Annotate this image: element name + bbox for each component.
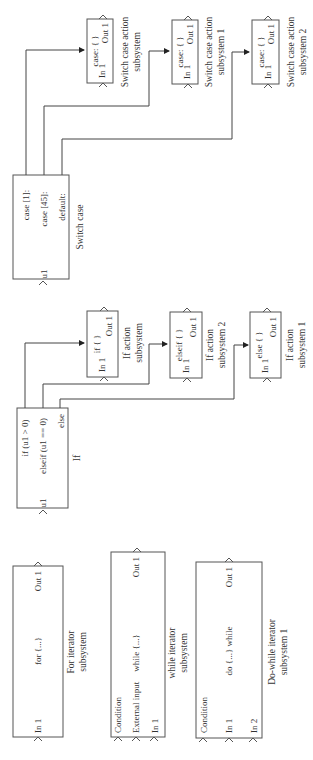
switch-action-2-label-line1: Switch case action — [286, 16, 296, 87]
action-out-port: Out 1 — [266, 24, 276, 44]
do-while-out-port: Out 1 — [224, 567, 234, 587]
output-port-icon — [184, 16, 192, 20]
for-body-label: for {...} — [33, 637, 43, 665]
input-port-icon — [132, 737, 140, 741]
input-port-icon — [225, 738, 233, 742]
if-input-label: u1 — [38, 499, 48, 508]
switch-case-action-subsystem[interactable]: case: { } In 1 Out 1 — [87, 15, 113, 87]
elseif-action-subsystem[interactable]: elseif { } In 1 Out 1 — [170, 308, 202, 382]
input-port-icon — [34, 737, 42, 741]
for-in-port: In 1 — [33, 719, 43, 733]
action-in-port: In 1 — [263, 65, 273, 79]
action-port-icon — [99, 83, 107, 87]
action-title: if { } — [92, 335, 102, 354]
action-title: else { } — [254, 331, 264, 358]
do-while-iterator-subsystem[interactable]: Condition In 1 In 2 do {...} while Out 1 — [196, 558, 262, 742]
do-while-in-1-port: In 1 — [224, 719, 234, 733]
if-block[interactable]: if (u1 > 0) elseif (u1 == 0) else u1 — [17, 408, 68, 514]
action-port-icon — [263, 378, 271, 382]
action-title: case: { } — [175, 36, 185, 67]
switch-case-port-default: default: — [57, 193, 67, 221]
input-port-icon — [39, 281, 47, 285]
output-port-icon — [100, 307, 108, 311]
switch-action-1-label-line1: Switch case action — [204, 16, 214, 87]
output-port-icon — [263, 308, 271, 312]
switch-action-label-line1: Switch case action — [120, 16, 130, 87]
while-external-input-port: External input — [131, 681, 141, 733]
while-condition-port: Condition — [113, 696, 123, 733]
for-out-port: Out 1 — [33, 571, 43, 591]
if-port-1: if (u1 > 0) — [20, 420, 30, 457]
elseif-action-label-line1: If action — [205, 329, 215, 361]
switch-case-action-subsystem-2[interactable]: case: { } In 1 Out 1 — [252, 16, 279, 88]
switch-case-label: Switch case — [75, 204, 85, 249]
action-in-port: In 1 — [97, 64, 107, 78]
do-while-condition-port: Condition — [199, 696, 209, 733]
output-port-icon — [225, 558, 233, 562]
input-port-icon — [249, 738, 257, 742]
for-label-line1: For iterator — [66, 630, 76, 674]
do-while-label-line1: Do-while iterator — [267, 618, 277, 685]
do-while-body-label: do {...} while — [224, 627, 234, 676]
while-out-port: Out 1 — [131, 557, 141, 577]
while-iterator-subsystem[interactable]: Condition External input In 1 while {...… — [111, 548, 165, 741]
input-port-icon — [150, 737, 158, 741]
output-port-icon — [133, 548, 141, 552]
switch-case-block[interactable]: case [1]: case [45]: default: u1 — [13, 175, 69, 285]
wire-case-1 — [26, 50, 84, 175]
output-port-icon — [183, 308, 191, 312]
while-body-label: while {...} — [131, 634, 141, 672]
action-port-icon — [100, 377, 108, 381]
input-port-icon — [39, 510, 47, 514]
action-title: elseif { } — [174, 329, 184, 362]
action-out-port: Out 1 — [100, 23, 110, 43]
output-port-icon — [264, 16, 272, 20]
action-title: case: { } — [90, 35, 100, 66]
action-port-icon — [184, 84, 192, 88]
switch-case-action-subsystem-1[interactable]: case: { } In 1 Out 1 — [172, 16, 198, 88]
switch-case-input-label: u1 — [39, 270, 49, 279]
for-iterator-subsystem[interactable]: for {...} In 1 Out 1 — [13, 562, 63, 741]
action-title: case: { } — [256, 36, 266, 67]
action-in-port: In 1 — [97, 358, 107, 372]
switch-action-2-label-line2: subsystem 2 — [298, 28, 308, 75]
if-port-elseif: elseif (u1 == 0) — [38, 418, 48, 474]
action-out-port: Out 1 — [268, 317, 278, 337]
switch-case-port-2: case [45]: — [39, 191, 49, 226]
action-in-port: In 1 — [181, 359, 191, 373]
action-port-icon — [264, 84, 272, 88]
if-action-subsystem[interactable]: if { } In 1 Out 1 — [87, 307, 118, 381]
action-out-port: Out 1 — [185, 24, 195, 44]
if-action-label-line2: subsystem — [134, 323, 144, 363]
if-label: If — [72, 454, 82, 461]
elseif-action-label-line2: subsystem 2 — [217, 321, 227, 368]
action-in-port: In 1 — [260, 359, 270, 373]
while-label-line2: subsystem — [179, 633, 189, 673]
wire-if — [25, 343, 84, 408]
action-out-port: Out 1 — [104, 316, 114, 336]
if-action-label-line1: If action — [122, 327, 132, 359]
else-action-subsystem[interactable]: else { } In 1 Out 1 — [250, 308, 281, 382]
do-while-label-line2: subsystem 1 — [279, 628, 289, 675]
action-out-port: Out 1 — [188, 317, 198, 337]
diagram-canvas: case [1]: case [45]: default: u1 Switch … — [0, 0, 313, 760]
while-label-line1: while iterator — [167, 627, 177, 679]
action-in-port: In 1 — [182, 65, 192, 79]
switch-action-1-label-line2: subsystem 1 — [216, 28, 226, 75]
input-port-icon — [114, 737, 122, 741]
switch-action-label-line2: subsystem — [132, 32, 142, 72]
input-port-icon — [199, 738, 207, 742]
if-port-else: else — [56, 414, 66, 428]
output-port-icon — [34, 562, 42, 566]
else-action-label-line2: subsystem 1 — [297, 321, 307, 368]
switch-case-port-1: case [1]: — [21, 190, 31, 221]
while-in-port: In 1 — [150, 719, 160, 733]
else-action-label-line1: If action — [285, 329, 295, 361]
action-port-icon — [183, 378, 191, 382]
output-port-icon — [99, 15, 107, 19]
for-label-line2: subsystem — [78, 632, 88, 672]
do-while-in-2-port: In 2 — [249, 719, 259, 733]
